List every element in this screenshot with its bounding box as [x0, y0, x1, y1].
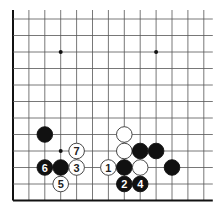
go-board: 7635124	[0, 0, 223, 211]
move-number-label: 3	[74, 162, 80, 174]
white-stone	[117, 127, 133, 143]
black-stone-icon	[37, 127, 53, 143]
white-stone-7: 7	[69, 143, 85, 159]
white-stone-icon	[117, 127, 133, 143]
black-stone-icon	[117, 160, 133, 176]
black-stone	[53, 160, 69, 176]
black-stone	[148, 143, 164, 159]
white-stone	[132, 160, 148, 176]
white-stone-5: 5	[53, 176, 69, 192]
white-stone-1: 1	[101, 160, 117, 176]
move-number-label: 5	[58, 178, 64, 190]
black-stone-icon	[164, 160, 180, 176]
black-stone-4: 4	[132, 176, 148, 192]
white-stone-icon	[117, 143, 133, 159]
black-stone-icon	[53, 160, 69, 176]
black-stone	[132, 143, 148, 159]
white-stone-icon	[132, 160, 148, 176]
star-point-icon	[59, 50, 63, 54]
white-stone-3: 3	[69, 160, 85, 176]
move-number-label: 6	[42, 162, 48, 174]
move-number-label: 4	[137, 178, 144, 190]
black-stone-6: 6	[37, 160, 53, 176]
move-number-label: 7	[74, 145, 80, 157]
black-stone-icon	[132, 143, 148, 159]
star-point-icon	[59, 149, 63, 153]
black-stone-2: 2	[117, 176, 133, 192]
black-stone	[37, 127, 53, 143]
black-stone	[164, 160, 180, 176]
star-point-icon	[154, 50, 158, 54]
move-number-label: 1	[105, 162, 111, 174]
black-stone	[117, 160, 133, 176]
white-stone	[117, 143, 133, 159]
move-number-label: 2	[121, 178, 127, 190]
black-stone-icon	[148, 143, 164, 159]
